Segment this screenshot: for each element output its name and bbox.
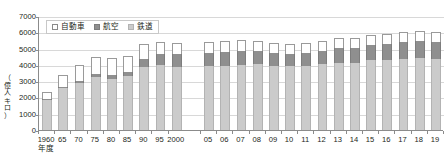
bar-column — [91, 57, 101, 130]
bar-column — [366, 35, 376, 130]
bar-segment-rail — [269, 66, 279, 130]
bar-segment-air — [382, 44, 392, 60]
bar-segment-air — [220, 52, 230, 65]
bar-segment-air — [204, 53, 214, 67]
bar-segment-air — [301, 53, 311, 65]
bar-column — [253, 41, 263, 130]
bar-segment-rail — [399, 59, 409, 130]
bar-segment-air — [139, 59, 149, 67]
bar-segment-rail — [382, 60, 392, 130]
x-axis-labels: 年度 1960657075808590952000050607080910111… — [0, 131, 448, 153]
bar-column — [204, 42, 214, 130]
bar-segment-auto — [220, 41, 230, 52]
bar-segment-auto — [399, 32, 409, 42]
bar-segment-auto — [139, 44, 149, 58]
bar-segment-rail — [75, 83, 85, 130]
bar-segment-auto — [415, 31, 425, 41]
bar-column — [285, 44, 295, 130]
bar-segment-auto — [366, 35, 376, 45]
legend-item-auto: 自動車 — [52, 23, 85, 31]
bar-column — [220, 41, 230, 130]
bar-segment-auto — [269, 43, 279, 53]
bar-segment-rail — [253, 64, 263, 130]
bar-segment-air — [415, 41, 425, 58]
bar-segment-rail — [204, 66, 214, 130]
bar-segment-air — [156, 54, 166, 65]
legend-label-auto: 自動車 — [61, 23, 85, 31]
x-axis-tick-label: 2000 — [163, 136, 189, 144]
bar-segment-auto — [204, 42, 214, 53]
plot-area: 01000200030004000500060007000 — [38, 17, 443, 131]
bar-column — [269, 43, 279, 130]
passenger-transport-stacked-bar-chart: （億人キロ） 01000200030004000500060007000 年度 … — [0, 0, 448, 164]
bar-segment-air — [285, 54, 295, 66]
bar-segment-rail — [285, 66, 295, 130]
bar-segment-rail — [42, 100, 52, 130]
bar-segment-air — [237, 51, 247, 65]
bar-segment-air — [334, 48, 344, 62]
bar-segment-rail — [156, 65, 166, 130]
bar-segment-auto — [285, 44, 295, 54]
bar-segment-rail — [139, 67, 149, 130]
bar-column — [431, 32, 441, 130]
bar-segment-rail — [431, 59, 441, 130]
bar-segment-rail — [334, 63, 344, 130]
bar-segment-auto — [350, 38, 360, 48]
bar-segment-rail — [172, 67, 182, 130]
bar-segment-air — [318, 51, 328, 64]
bar-segment-air — [172, 54, 182, 67]
bar-segment-rail — [350, 63, 360, 130]
bar-segment-air — [366, 45, 376, 60]
bar-segment-auto — [107, 58, 117, 75]
bar-segment-auto — [58, 75, 68, 87]
bar-segment-rail — [318, 64, 328, 130]
y-axis-tick-label: 7000 — [6, 13, 36, 21]
bar-segment-rail — [91, 77, 101, 130]
bar-column — [415, 31, 425, 130]
bar-segment-auto — [253, 41, 263, 51]
bar-column — [399, 32, 409, 130]
bar-column — [318, 41, 328, 130]
bar-column — [172, 43, 182, 130]
bar-column — [75, 65, 85, 130]
bar-segment-air — [350, 48, 360, 63]
bar-segment-air — [431, 42, 441, 59]
legend-swatch-rail-icon — [128, 24, 134, 30]
bar-column — [382, 34, 392, 130]
bar-segment-rail — [301, 66, 311, 130]
bar-segment-rail — [123, 76, 133, 130]
bar-segment-air — [269, 53, 279, 65]
bar-segment-rail — [58, 88, 68, 130]
bar-column — [301, 43, 311, 130]
bar-segment-auto — [237, 40, 247, 51]
legend-item-rail: 鉄道 — [128, 23, 153, 31]
legend-label-air: 航空 — [103, 23, 119, 31]
bar-segment-rail — [107, 79, 117, 130]
bar-column — [107, 58, 117, 130]
bar-segment-auto — [172, 43, 182, 54]
chart-legend: 自動車 航空 鉄道 — [46, 20, 159, 34]
bar-segment-auto — [431, 32, 441, 42]
bar-segment-rail — [237, 65, 247, 130]
bar-segment-auto — [318, 41, 328, 51]
bar-segment-auto — [156, 42, 166, 55]
bar-segment-auto — [334, 38, 344, 48]
bar-column — [123, 56, 133, 130]
bar-segment-rail — [220, 66, 230, 130]
bar-segment-air — [399, 42, 409, 58]
legend-item-air: 航空 — [94, 23, 119, 31]
bar-column — [237, 40, 247, 130]
x-axis-tick-label: 19 — [422, 136, 448, 144]
bar-segment-auto — [75, 65, 85, 81]
y-axis-tick-label: 4000 — [6, 62, 36, 70]
legend-label-rail: 鉄道 — [137, 23, 153, 31]
bar-column — [156, 42, 166, 130]
bar-column — [42, 92, 52, 130]
bar-segment-auto — [301, 43, 311, 53]
y-axis-tick-label: 1000 — [6, 111, 36, 119]
legend-swatch-auto-icon — [52, 24, 58, 30]
bar-column — [350, 38, 360, 130]
bar-segment-rail — [366, 60, 376, 130]
bar-segment-auto — [123, 56, 133, 73]
bar-segment-auto — [91, 57, 101, 75]
